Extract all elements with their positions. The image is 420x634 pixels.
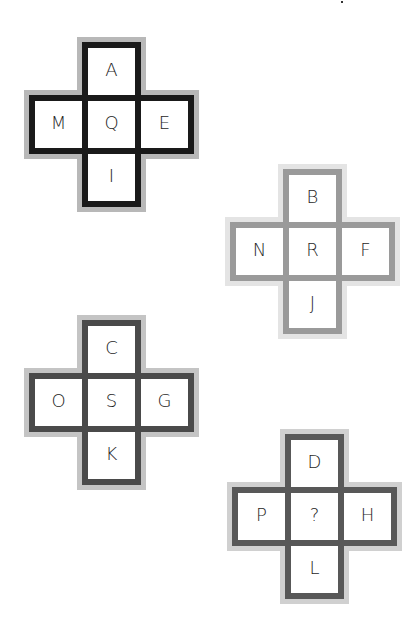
scan-speck	[341, 1, 343, 3]
letter-cross-4: D P ? H L	[232, 434, 397, 599]
cell-bottom: J	[289, 281, 336, 328]
cell-top: A	[88, 48, 135, 95]
cell-letter: K	[106, 445, 118, 463]
cell-center: S	[88, 379, 135, 426]
cell-top: B	[289, 175, 336, 222]
cell-letter: I	[109, 167, 114, 185]
cell-letter: F	[360, 241, 370, 259]
cell-right: E	[141, 101, 188, 148]
cell-right: H	[344, 493, 391, 540]
cell-letter: E	[159, 114, 170, 132]
letter-cross-3: C O S G K	[29, 320, 194, 485]
cell-right: F	[342, 228, 389, 275]
cell-center: R	[289, 228, 336, 275]
cell-letter: B	[307, 188, 319, 206]
cell-letter: P	[256, 506, 267, 524]
cell-center: Q	[88, 101, 135, 148]
cell-bottom: K	[88, 432, 135, 479]
cell-top: C	[88, 326, 135, 373]
letter-cross-1: A M Q E I	[29, 42, 194, 207]
cell-letter: N	[253, 241, 266, 259]
cell-left: P	[238, 493, 285, 540]
cell-letter: D	[308, 453, 322, 471]
cell-top: D	[291, 440, 338, 487]
cell-letter: L	[309, 559, 319, 577]
cell-letter: R	[306, 241, 319, 259]
cell-center: ?	[291, 493, 338, 540]
cell-bottom: L	[291, 546, 338, 593]
cell-left: N	[236, 228, 283, 275]
cell-letter: C	[105, 339, 118, 357]
cell-left: O	[35, 379, 82, 426]
cell-letter: G	[158, 392, 172, 410]
cell-right: G	[141, 379, 188, 426]
cell-letter: A	[105, 61, 117, 79]
letter-cross-2: B N R F J	[230, 169, 395, 334]
unknown-answer-mark: ?	[310, 506, 320, 524]
cell-letter: Q	[104, 114, 118, 132]
cell-letter: O	[51, 392, 65, 410]
cell-bottom: I	[88, 154, 135, 201]
cell-left: M	[35, 101, 82, 148]
cell-letter: H	[361, 506, 375, 524]
cell-letter: J	[310, 294, 315, 312]
cell-letter: S	[106, 392, 117, 410]
cell-letter: M	[51, 114, 67, 132]
